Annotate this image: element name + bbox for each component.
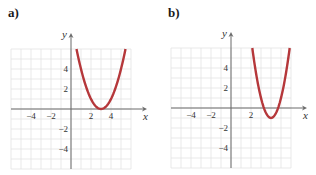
x-axis-label: x <box>302 109 308 121</box>
y-tick-label: −2 <box>58 124 68 134</box>
y-tick-label: −2 <box>218 123 228 133</box>
x-tick-label: 2 <box>249 110 254 120</box>
graphs: xy−4−22442−2−4xy−4−2242−2−4 <box>0 0 316 175</box>
y-axis-label: y <box>221 27 227 39</box>
x-tick-label: −2 <box>206 110 216 120</box>
y-tick-label: −4 <box>58 144 68 154</box>
y-tick-label: 4 <box>224 63 229 73</box>
x-axis-label: x <box>142 110 148 122</box>
x-tick-label: 4 <box>109 111 114 121</box>
x-tick-label: −4 <box>186 110 196 120</box>
y-axis-label: y <box>61 28 67 40</box>
x-tick-label: −4 <box>26 111 36 121</box>
x-tick-label: −2 <box>46 111 56 121</box>
x-tick-label: 2 <box>89 111 94 121</box>
y-tick-label: 2 <box>64 84 69 94</box>
y-tick-label: −4 <box>218 143 228 153</box>
y-tick-label: 2 <box>224 83 229 93</box>
y-tick-label: 4 <box>64 64 69 74</box>
